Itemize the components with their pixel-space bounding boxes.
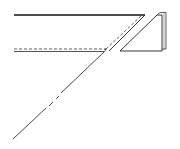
long-diagonal-dash-1 — [56, 96, 59, 99]
long-diagonal-dash-2 — [49, 102, 53, 106]
triangle-flap — [120, 15, 162, 51]
fold-corner-point — [105, 49, 107, 51]
long-diagonal-upper — [61, 52, 104, 93]
fold-diagram — [0, 0, 180, 149]
long-diagonal-lower — [13, 108, 46, 139]
diagram-canvas — [0, 0, 180, 149]
